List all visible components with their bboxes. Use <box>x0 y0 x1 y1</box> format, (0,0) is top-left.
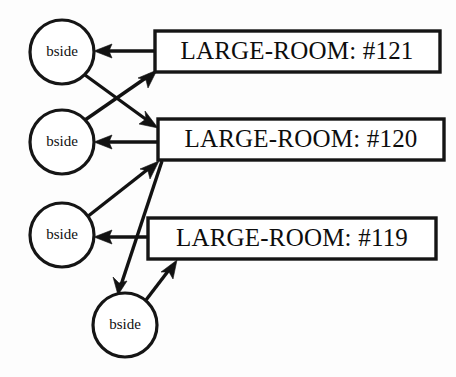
node-label: bside <box>46 226 78 242</box>
edge-layer <box>85 44 177 300</box>
node-room119[interactable]: LARGE-ROOM: #119 <box>148 218 436 259</box>
edge-room121-to-bside1 <box>94 44 155 58</box>
edge-room120-to-bside2 <box>94 135 158 149</box>
edge-bside4-to-room119 <box>146 260 177 300</box>
edge-line <box>87 166 152 217</box>
node-label: LARGE-ROOM: #119 <box>176 224 408 251</box>
node-layer: bside bside bside bside LARGE-ROOM: #121 <box>30 20 444 357</box>
edge-bside3-to-room120 <box>87 161 159 217</box>
node-bside4[interactable]: bside <box>93 293 157 357</box>
node-bside2[interactable]: bside <box>30 110 94 174</box>
node-bside3[interactable]: bside <box>30 203 94 267</box>
arrowhead-icon <box>94 230 112 244</box>
node-label: bside <box>109 316 141 332</box>
arrowhead-icon <box>139 111 158 128</box>
arrowhead-icon <box>94 44 112 58</box>
node-label: LARGE-ROOM: #120 <box>184 125 417 152</box>
node-label: LARGE-ROOM: #121 <box>180 37 413 64</box>
node-label: bside <box>46 43 78 59</box>
node-label: bside <box>46 133 78 149</box>
node-room121[interactable]: LARGE-ROOM: #121 <box>155 31 440 72</box>
node-bside1[interactable]: bside <box>30 20 94 84</box>
diagram-canvas: bside bside bside bside LARGE-ROOM: #121 <box>0 0 456 377</box>
arrowhead-icon <box>94 135 112 149</box>
node-room120[interactable]: LARGE-ROOM: #120 <box>158 119 444 160</box>
graph-svg: bside bside bside bside LARGE-ROOM: #121 <box>0 0 456 377</box>
